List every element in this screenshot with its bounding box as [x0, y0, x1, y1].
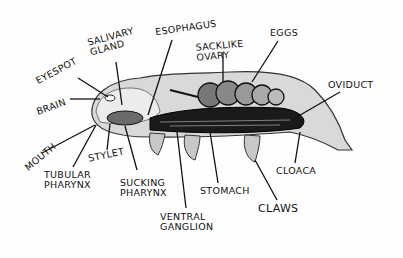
tardigrade-anatomy-diagram: Eyespot Salivary Gland Esophagus Sacklik… — [0, 0, 403, 258]
label-tubular-pharynx: Tubular Pharynx — [44, 170, 104, 190]
label-eggs: Eggs — [270, 28, 298, 38]
label-sucking-pharynx: Sucking Pharynx — [120, 178, 180, 198]
label-ventral-ganglion: Ventral Ganglion — [160, 212, 230, 232]
label-cloaca: Cloaca — [276, 166, 316, 176]
label-claws: Claws — [258, 204, 298, 214]
label-oviduct: Oviduct — [328, 80, 373, 90]
label-stomach: Stomach — [200, 186, 250, 196]
